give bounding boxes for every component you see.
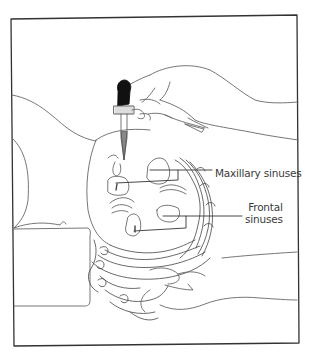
frontal-sinus-right [157, 205, 180, 222]
label-frontal-sinuses: Frontal sinuses [245, 201, 283, 225]
dropper-bulb [117, 80, 130, 106]
nose [113, 162, 121, 176]
pillow-outline [14, 228, 90, 306]
label-frontal-line1: Frontal [245, 201, 283, 213]
label-maxillary-sinuses: Maxillary sinuses [215, 167, 301, 179]
frontal-sinus-left [125, 214, 140, 236]
lower-arm [222, 252, 297, 258]
frame-border [11, 15, 299, 346]
shoulder-outline [12, 95, 96, 141]
helper-arm [150, 66, 298, 103]
maxillary-sinus-left [108, 176, 129, 195]
illustration-drawing [0, 0, 309, 360]
label-frontal-line2: sinuses [245, 213, 283, 225]
face-outline [87, 140, 110, 245]
medical-illustration: Maxillary sinuses Frontal sinuses [0, 0, 309, 360]
arm-outline [12, 138, 28, 228]
